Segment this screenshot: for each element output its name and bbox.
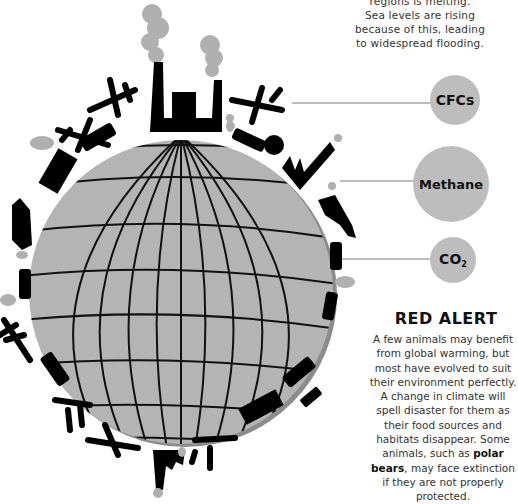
cow-icon [318, 195, 356, 238]
alert-text: A few animals may benefit from global wa… [370, 333, 516, 459]
gas-subscript: 2 [461, 260, 467, 269]
airplane-icon [90, 80, 135, 115]
dish-icon [264, 135, 284, 155]
factory-icon [153, 450, 185, 498]
red-alert-heading: RED ALERT [376, 309, 516, 328]
gas-label: CO [439, 251, 461, 267]
cow-icon [12, 198, 32, 250]
gas-label: CFCs [436, 92, 474, 108]
factory-icon [282, 134, 342, 190]
gas-bubble-methane: Methane [413, 146, 489, 222]
connector-line [292, 102, 432, 104]
gas-label: Methane [419, 177, 483, 192]
intro-line: to widespread flooding. [330, 36, 510, 50]
intro-line: Sea levels are rising [330, 8, 510, 22]
airplane-icon [0, 320, 30, 360]
factory-icon [141, 4, 235, 132]
connector-line [342, 258, 434, 260]
car-icon [330, 242, 342, 270]
gas-bubble-cfcs: CFCs [430, 75, 480, 125]
connector-line [340, 180, 420, 182]
intro-line: regions is melting. [330, 0, 510, 8]
red-alert-body: A few animals may benefit from global wa… [368, 332, 518, 504]
airplane-icon [232, 88, 282, 122]
car-icon [231, 127, 267, 152]
gas-bubble-co2: CO2 [430, 237, 476, 283]
intro-paragraph: regions is melting. Sea levels are risin… [330, 0, 510, 50]
intro-line: because of this, leading [330, 22, 510, 36]
airplane-icon [55, 400, 90, 430]
car-icon [19, 269, 31, 299]
